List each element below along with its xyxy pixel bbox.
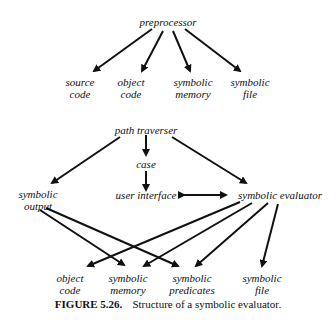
node-label-line2: memory [108,284,147,296]
node-symbolic-evaluator: symbolic evaluator [238,189,322,201]
node-label-line1: symbolic [173,76,212,88]
node-label-line1: object [118,76,145,88]
node-label-line2: predicates [169,284,214,296]
node-path-traverser: path traverser [115,124,178,136]
node-symbolic-file-bottom: symbolic file [242,272,281,296]
node-symbolic-memory-top: symbolic memory [173,76,212,100]
node-label-line2: code [118,88,145,100]
figure-caption: FIGURE 5.26.Structure of a symbolic eval… [0,298,336,310]
node-object-code-bottom: object code [57,272,84,296]
node-symbolic-predicates: symbolic predicates [169,272,214,296]
node-label-line1: symbolic [242,272,281,284]
node-label-line2: output [18,200,57,212]
node-source-code: source code [66,76,95,100]
node-label-line1: object [57,272,84,284]
node-label-line2: file [242,284,281,296]
node-label-line1: source [66,76,95,88]
node-user-interface: user interface [116,189,177,201]
node-symbolic-output: symbolic output [18,188,57,212]
node-label-line1: symbolic [108,272,147,284]
node-label-line2: code [57,284,84,296]
figure-caption-text: Structure of a symbolic evaluator. [132,298,281,310]
node-object-code-top: object code [118,76,145,100]
figure-label: FIGURE 5.26. [55,298,123,310]
node-case: case [136,158,156,170]
node-label-line2: code [66,88,95,100]
node-preprocessor: preprocessor [139,16,196,28]
node-symbolic-file-top: symbolic file [230,76,269,100]
node-label-line1: symbolic [18,188,57,200]
node-symbolic-memory-bottom: symbolic memory [108,272,147,296]
node-label-line2: file [230,88,269,100]
diagram-edges [0,0,336,320]
node-label-line1: symbolic [169,272,214,284]
node-label-line2: memory [173,88,212,100]
node-label-line1: symbolic [230,76,269,88]
